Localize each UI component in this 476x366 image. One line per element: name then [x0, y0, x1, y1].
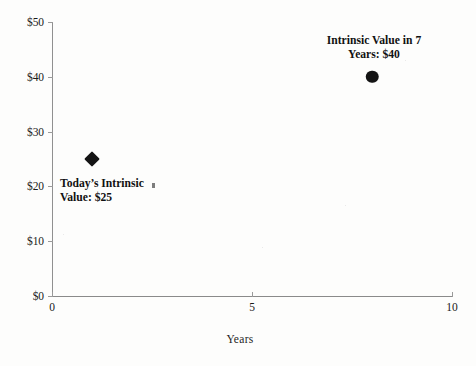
y-tick-label: $0: [0, 290, 44, 302]
y-tick-mark: [48, 132, 53, 133]
scan-speckle: [345, 205, 346, 206]
x-tick-label: 10: [446, 301, 458, 313]
data-point-todays-intrinsic-value: [84, 151, 100, 167]
y-tick-mark: [48, 22, 53, 23]
x-tick-mark: [52, 292, 53, 297]
x-axis-title: Years: [0, 333, 476, 345]
x-tick-mark: [452, 292, 453, 297]
x-tick-label: 0: [49, 301, 55, 313]
scan-speckle: [262, 247, 263, 248]
y-axis-line: [52, 22, 53, 297]
scan-speckle: [63, 234, 64, 235]
x-tick-label: 5: [249, 301, 255, 313]
y-tick-label: $20: [0, 180, 44, 192]
x-tick-mark: [252, 292, 253, 297]
y-tick-label: $40: [0, 71, 44, 83]
annotation-todays-intrinsic-value: Today’s Intrinsic Value: $25: [60, 177, 144, 204]
y-tick-label: $30: [0, 126, 44, 138]
scan-speckle: [405, 60, 406, 61]
y-tick-mark: [48, 77, 53, 78]
x-axis-title-label: Years: [226, 333, 253, 345]
y-tick-label: $50: [0, 16, 44, 28]
data-point-intrinsic-value-in-7-years: [366, 71, 379, 84]
y-tick-mark: [48, 241, 53, 242]
scan-speckle: [152, 183, 155, 188]
chart-canvas: $0$10$20$30$40$50 0510 Today’s Intrinsic…: [0, 0, 476, 366]
y-tick-mark: [48, 186, 53, 187]
y-tick-label: $10: [0, 235, 44, 247]
annotation-intrinsic-value-in-7-years: Intrinsic Value in 7 Years: $40: [306, 34, 442, 61]
